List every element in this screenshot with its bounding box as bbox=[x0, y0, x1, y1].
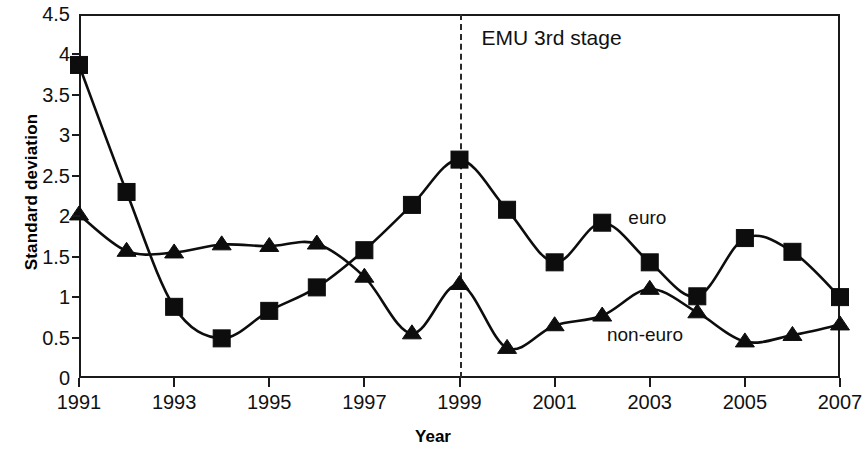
x-axis-title: Year bbox=[0, 427, 866, 447]
y-axis-tick-mark bbox=[72, 337, 80, 339]
x-axis-tick-label: 1995 bbox=[247, 391, 292, 414]
series-label-non-euro: non-euro bbox=[607, 324, 683, 346]
x-axis-tick-mark bbox=[78, 378, 80, 387]
y-axis-tick-label: 0.5 bbox=[42, 328, 70, 348]
y-axis-tick-mark bbox=[72, 256, 80, 258]
y-axis-tick-label: 1.5 bbox=[42, 247, 70, 267]
y-axis-tick-mark bbox=[72, 296, 80, 298]
x-axis-tick-mark bbox=[268, 378, 270, 387]
x-axis-tick-label: 2007 bbox=[818, 391, 863, 414]
emu-3rd-stage-vline bbox=[460, 14, 462, 378]
x-axis-tick-label: 2003 bbox=[628, 391, 673, 414]
x-axis-tick-mark bbox=[459, 378, 461, 387]
x-axis-tick-label: 1997 bbox=[342, 391, 387, 414]
y-axis-tick-label: 0 bbox=[59, 368, 70, 388]
y-axis-tick-mark bbox=[72, 175, 80, 177]
y-axis-tick-mark bbox=[72, 94, 80, 96]
y-axis-tick-label: 2 bbox=[59, 206, 70, 226]
x-axis-tick-mark bbox=[839, 378, 841, 387]
x-axis-tick-mark bbox=[554, 378, 556, 387]
x-axis-tick-label: 1991 bbox=[57, 391, 102, 414]
chart-figure: 00.511.522.533.544.5 Standard deviation … bbox=[0, 0, 866, 460]
y-axis-tick-mark bbox=[72, 134, 80, 136]
x-axis-tick-mark bbox=[173, 378, 175, 387]
x-axis-tick-label: 1993 bbox=[152, 391, 197, 414]
y-axis-tick-label: 4.5 bbox=[42, 4, 70, 24]
series-label-euro: euro bbox=[628, 207, 666, 229]
y-axis-tick-label: 3 bbox=[59, 125, 70, 145]
x-axis-tick-label: 2001 bbox=[532, 391, 577, 414]
y-axis-tick-mark bbox=[72, 53, 80, 55]
y-axis-title: Standard deviation bbox=[22, 42, 42, 342]
x-axis-tick-label: 1999 bbox=[437, 391, 482, 414]
y-axis-tick-mark bbox=[72, 215, 80, 217]
x-axis-tick-mark bbox=[649, 378, 651, 387]
x-axis-tick-mark bbox=[744, 378, 746, 387]
emu-3rd-stage-label: EMU 3rd stage bbox=[482, 26, 622, 50]
y-axis-tick-label: 1 bbox=[59, 287, 70, 307]
y-axis-tick-label: 2.5 bbox=[42, 166, 70, 186]
x-axis-tick-label: 2005 bbox=[723, 391, 768, 414]
y-axis-tick-label: 3.5 bbox=[42, 85, 70, 105]
y-axis-tick-label: 4 bbox=[59, 44, 70, 64]
x-axis-tick-mark bbox=[363, 378, 365, 387]
